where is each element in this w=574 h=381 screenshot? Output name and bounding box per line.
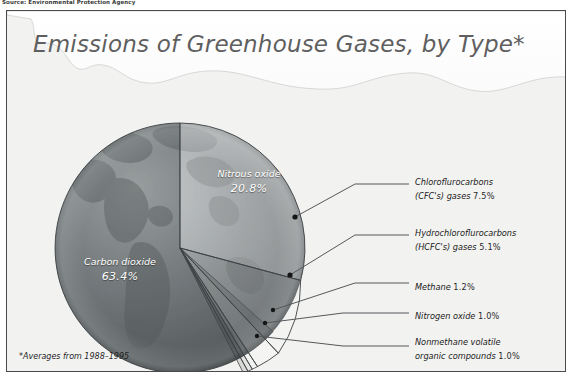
callout-nmvoc: Nonmethane volatile organic compounds 1.… (415, 336, 520, 363)
slice-label-carbon-dioxide: Carbon dioxide 63.4% (55, 255, 185, 285)
leader-line-hcfc (287, 235, 409, 278)
callout-methane-value: 1.2% (453, 282, 475, 292)
callout-cfc-line2: (CFC's) gases (415, 191, 470, 201)
source-attribution: Source: Environmental Protection Agency (2, 0, 135, 5)
slice-label-nitrous-oxide-pct: 20.8% (189, 181, 309, 197)
callout-methane: Methane 1.2% (415, 281, 475, 295)
pie-slices (55, 123, 305, 371)
leader-line-cfc (292, 184, 409, 220)
poster-inner: Emissions of Greenhouse Gases, by Type* (7, 11, 565, 371)
callout-nmvoc-line2: organic compounds (415, 351, 496, 361)
callout-hcfc: Hydrochloroflurocarbons (HCFC's) gases 5… (415, 227, 516, 254)
callout-nitrogen-oxide: Nitrogen oxide 1.0% (415, 310, 500, 324)
callout-nitrogen-oxide-line1: Nitrogen oxide (415, 311, 475, 321)
callout-cfc-value: 7.5% (473, 191, 495, 201)
callout-hcfc-line1: Hydrochloroflurocarbons (415, 227, 516, 241)
callout-cfc-line1: Chloroflurocarbons (415, 176, 495, 190)
slice-label-nitrous-oxide: Nitrous oxide 20.8% (189, 167, 309, 197)
callout-nmvoc-line1: Nonmethane volatile (415, 336, 520, 350)
callout-cfc: Chloroflurocarbons (CFC's) gases 7.5% (415, 176, 495, 203)
footnote: *Averages from 1988–1995 (19, 352, 129, 361)
callout-hcfc-value: 5.1% (479, 242, 501, 252)
callout-methane-line1: Methane (415, 282, 451, 292)
callout-hcfc-line2: (HCFC's) gases (415, 242, 477, 252)
slice-label-carbon-dioxide-name: Carbon dioxide (55, 255, 185, 269)
slice-label-nitrous-oxide-name: Nitrous oxide (189, 167, 309, 181)
poster-frame: Emissions of Greenhouse Gases, by Type* (6, 10, 566, 372)
slice-label-carbon-dioxide-pct: 63.4% (55, 269, 185, 285)
callout-nmvoc-value: 1.0% (498, 351, 520, 361)
callout-nitrogen-oxide-value: 1.0% (478, 311, 500, 321)
